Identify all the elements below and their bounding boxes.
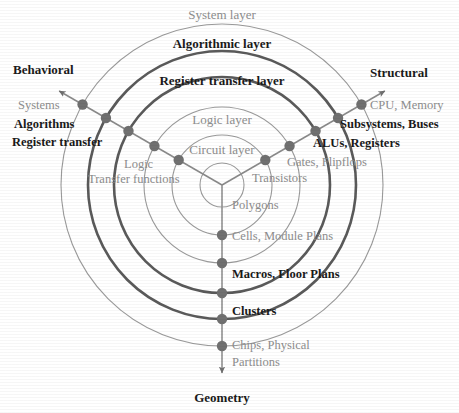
axis-dot-structural-4 [260, 155, 270, 165]
axis-dot-geometry-1 [217, 314, 227, 324]
point-label-gates-flipflops: Gates, Flipflops [287, 156, 367, 169]
ring-label-circuit: Circuit layer [189, 143, 254, 157]
axis-title-structural: Structural [370, 66, 428, 80]
axis-dot-behavioral-3 [149, 141, 159, 151]
point-label-register-transfer: Register transfer [12, 136, 102, 149]
axis-dot-behavioral-0 [77, 99, 87, 109]
ring-label-system: System layer [188, 8, 256, 22]
point-label-clusters: Clusters [232, 305, 276, 318]
point-label-polygons: Polygons [232, 199, 279, 212]
point-label-chips-partitions: Partitions [232, 356, 280, 369]
axis-dot-geometry-3 [217, 258, 227, 268]
y-chart-page: { "chart_data": { "type": "diagram", "ti… [0, 0, 459, 413]
point-label-logic: Logic [124, 158, 153, 171]
axis-dot-structural-2 [310, 126, 320, 136]
point-label-subsystems-buses: Subsystems, Buses [340, 118, 439, 131]
axis-dot-structural-0 [356, 99, 366, 109]
point-label-cpu-memory: CPU, Memory [370, 99, 444, 112]
point-label-systems: Systems [18, 99, 60, 112]
axis-dot-structural-3 [284, 141, 294, 151]
axis-title-behavioral: Behavioral [13, 63, 74, 77]
point-label-transistors: Transistors [252, 172, 307, 185]
ring-label-register-transfer: Register transfer layer [159, 74, 284, 88]
ring-label-algorithmic: Algorithmic layer [173, 37, 272, 51]
axis-dot-behavioral-1 [101, 113, 111, 123]
axis-dot-behavioral-4 [173, 155, 183, 165]
axis-dot-geometry-2 [217, 288, 227, 298]
axis-title-geometry: Geometry [194, 391, 250, 405]
point-label-alus-registers: ALUs, Registers [313, 137, 400, 150]
point-label-cells-module-plans: Cells, Module Plans [232, 230, 333, 243]
point-label-chips-physical: Chips, Physical [232, 339, 310, 352]
axis-dot-behavioral-2 [123, 126, 133, 136]
ring-label-logic: Logic layer [192, 113, 252, 127]
point-label-algorithms: Algorithms [14, 118, 74, 131]
point-label-macros-floor-plans: Macros, Floor Plans [232, 268, 340, 281]
axis-dot-geometry-4 [217, 230, 227, 240]
point-label-transfer-functions: Transfer functions [88, 173, 180, 186]
axis-dot-geometry-0 [217, 341, 227, 351]
